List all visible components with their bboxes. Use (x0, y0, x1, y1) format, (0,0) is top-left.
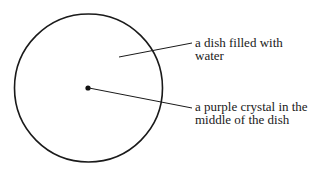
crystal-leader-line (89, 88, 192, 108)
dish-label: a dish filled with water (195, 37, 283, 62)
crystal-label: a purple crystal in the middle of the di… (195, 101, 308, 126)
dish-label-line-2: water (195, 50, 283, 63)
crystal-label-line-2: middle of the dish (195, 114, 308, 127)
diagram-canvas (0, 0, 330, 179)
